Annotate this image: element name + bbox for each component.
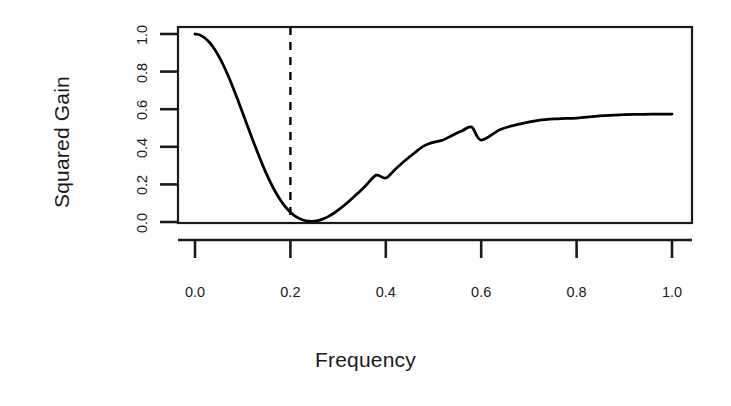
x-tick-label-0.6: 0.6: [461, 284, 501, 300]
x-axis-title: Frequency: [0, 348, 731, 372]
chart-figure: 1.0 0.8 0.6 0.4 0.2 0.0 0.0 0.2 0.4 0.6 …: [0, 0, 731, 406]
y-tick-label-0.4: 0.4: [134, 128, 150, 168]
x-tick-label-1.0: 1.0: [652, 284, 692, 300]
x-tick-label-0.2: 0.2: [270, 284, 310, 300]
squared-gain-plot: [0, 0, 731, 406]
x-axis: [178, 240, 692, 258]
plot-panel-box: [178, 27, 692, 223]
y-tick-label-0.2: 0.2: [134, 165, 150, 205]
x-tick-label-0.0: 0.0: [175, 284, 215, 300]
y-axis-title: Squared Gain: [50, 42, 74, 242]
y-axis-ticks: [160, 34, 178, 222]
y-tick-label-0.8: 0.8: [134, 53, 150, 93]
y-tick-label-0.0: 0.0: [134, 203, 150, 243]
y-tick-label-1.0: 1.0: [134, 15, 150, 55]
y-tick-label-0.6: 0.6: [134, 90, 150, 130]
x-tick-label-0.4: 0.4: [366, 284, 406, 300]
x-tick-label-0.8: 0.8: [557, 284, 597, 300]
